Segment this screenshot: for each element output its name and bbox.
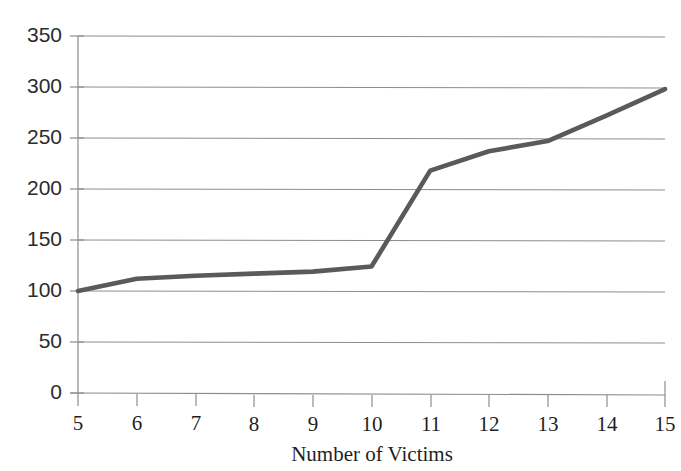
line-chart: 350 300 250 200 150 100 50 0 5 6 7 8 9 1…	[0, 0, 681, 471]
xtick-label-9: 9	[308, 412, 319, 436]
xtick-label-14: 14	[597, 412, 619, 436]
xtick-label-6: 6	[132, 411, 143, 435]
ytick-label-100: 100	[27, 278, 62, 301]
ytick-label-50: 50	[39, 329, 62, 352]
xtick-label-11: 11	[421, 412, 441, 436]
chart-page: 350 300 250 200 150 100 50 0 5 6 7 8 9 1…	[0, 0, 681, 471]
xtick-label-13: 13	[538, 412, 559, 436]
x-axis-title: Number of Victims	[291, 442, 453, 466]
xtick-label-8: 8	[249, 412, 260, 436]
ytick-label-350: 350	[27, 23, 62, 46]
ytick-label-300: 300	[27, 74, 62, 97]
xtick-label-12: 12	[479, 412, 500, 436]
xtick-label-7: 7	[191, 411, 202, 435]
xtick-label-5: 5	[73, 411, 84, 435]
chart-background	[0, 0, 681, 471]
xtick-label-10: 10	[362, 412, 383, 436]
ytick-label-200: 200	[27, 176, 62, 199]
xtick-label-15: 15	[655, 412, 676, 436]
ytick-label-150: 150	[27, 227, 62, 250]
ytick-label-0: 0	[50, 380, 62, 403]
ytick-label-250: 250	[27, 125, 62, 148]
